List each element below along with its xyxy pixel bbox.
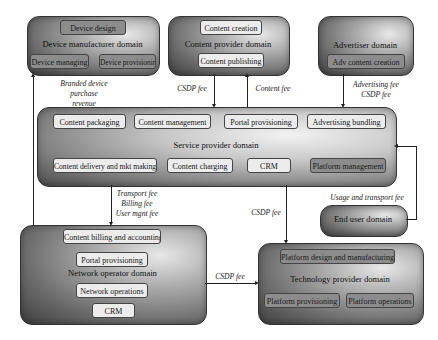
advertising-bundling-box: Advertising bundling <box>307 114 386 129</box>
platform-management-box: Platform management <box>310 158 386 173</box>
fee-line: revenue <box>44 99 124 109</box>
sp-tech-csdp-fee: CSDP fee <box>248 208 284 218</box>
no-tech-csdp-arrow <box>205 283 256 284</box>
sp-tech-csdp-arrow <box>286 185 287 241</box>
network-fee: Transport fee Billing fee User mgnt fee <box>112 189 162 219</box>
adv-content-creation-box: Adv content creation <box>327 54 405 69</box>
device-design-box: Device design <box>60 20 126 35</box>
content-fee-arrow <box>247 76 248 107</box>
network-operator-label: Network operator domain <box>20 268 205 278</box>
fee-line: CSDP fee <box>348 90 404 100</box>
device-manufacturer-label: Device manufacturer domain <box>27 39 158 49</box>
advertising-fee: Advertising fee CSDP fee <box>348 80 404 100</box>
device-managing-box: Device managing <box>30 54 89 69</box>
content-charging-box: Content charging <box>167 158 233 173</box>
advertising-arrow <box>343 74 344 105</box>
no-tech-csdp-fee: CSDP fee <box>212 272 248 282</box>
portal-provisioning-box: Portal provisioning <box>224 114 298 129</box>
fee-line: Advertising fee <box>348 80 404 90</box>
technology-provider-label: Technology provider domain <box>258 274 422 284</box>
usage-line-v <box>416 146 417 220</box>
branded-device-fee: Branded device purchase revenue <box>44 79 124 109</box>
network-operations-box: Network operations <box>76 283 148 298</box>
platform-operations-box: Platform operations <box>346 293 414 308</box>
portal-provisioning-no-box: Portal provisioning <box>76 252 148 267</box>
usage-fee: Usage and transport fee <box>322 193 412 203</box>
content-provider-label: Content provider domain <box>168 39 288 49</box>
fee-line: Billing fee <box>112 199 162 209</box>
service-provider-label: Service provider domain <box>37 140 395 150</box>
device-provisioning-box: Device provisioning <box>99 54 156 69</box>
end-user-label: End user domain <box>320 214 406 224</box>
crm-box: CRM <box>247 158 291 173</box>
content-management-box: Content management <box>134 114 211 129</box>
content-creation-box: Content creation <box>200 20 262 35</box>
fee-line: purchase <box>44 89 124 99</box>
platform-provisioning-box: Platform provisioning <box>264 293 340 308</box>
branded-device-arrow <box>33 76 34 226</box>
fee-line: Branded device <box>44 79 124 89</box>
content-publishing-box: Content publishing <box>198 53 264 68</box>
content-delivery-box: Content delivery and mkt making <box>53 158 157 173</box>
content-billing-box: Content billing and accounting <box>63 229 161 244</box>
content-fee: Content fee <box>253 84 293 94</box>
fee-line: Transport fee <box>112 189 162 199</box>
usage-line-h1 <box>406 219 416 220</box>
crm-no-box: CRM <box>92 303 135 318</box>
cp-csdp-fee: CSDP fee <box>174 84 210 94</box>
cp-csdp-arrow <box>214 74 215 105</box>
content-packaging-box: Content packaging <box>53 114 126 129</box>
platform-design-box: Platform design and manufacturing <box>280 249 395 264</box>
fee-line: User mgnt fee <box>112 209 162 219</box>
advertiser-label: Advertiser domain <box>318 40 412 50</box>
usage-arrow <box>397 146 416 147</box>
